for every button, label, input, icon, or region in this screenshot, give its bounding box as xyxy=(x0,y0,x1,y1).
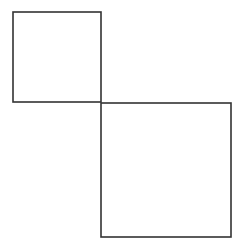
diagram-canvas xyxy=(0,0,246,248)
small-square xyxy=(13,12,101,102)
two-squares-diagram xyxy=(0,0,246,248)
large-square xyxy=(101,103,231,237)
